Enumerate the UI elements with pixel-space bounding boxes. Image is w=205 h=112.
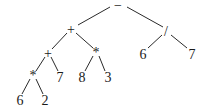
tree-edge-n0-n1 xyxy=(78,7,110,25)
tree-node-n7: * xyxy=(30,68,37,83)
tree-node-n6: 7 xyxy=(189,47,196,62)
tree-nodes: −+/+*67*78362 xyxy=(17,0,196,108)
tree-node-n3: + xyxy=(44,46,52,61)
tree-node-n10: 3 xyxy=(105,70,112,85)
tree-edge-n2-n5 xyxy=(148,35,162,48)
tree-node-n5: 6 xyxy=(140,47,147,62)
tree-edge-n2-n6 xyxy=(171,35,187,48)
tree-node-n12: 2 xyxy=(42,93,49,108)
tree-node-n8: 7 xyxy=(57,70,64,85)
expression-tree-diagram: −+/+*67*78362 xyxy=(0,0,205,112)
tree-node-n11: 6 xyxy=(17,93,24,108)
tree-node-n2: / xyxy=(164,24,168,39)
tree-edge-n1-n4 xyxy=(76,33,93,48)
tree-edge-n0-n2 xyxy=(127,7,163,27)
tree-node-n1: + xyxy=(67,22,75,37)
tree-node-n9: 8 xyxy=(79,70,86,85)
tree-edge-n1-n3 xyxy=(52,33,67,49)
tree-node-n0: − xyxy=(114,0,122,13)
tree-node-n4: * xyxy=(93,45,100,60)
